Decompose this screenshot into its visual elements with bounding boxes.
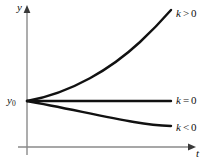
k-negative-operator: < — [183, 121, 189, 133]
initial-value-label: y0 — [7, 95, 16, 108]
curve-k-positive — [27, 10, 171, 101]
curve-label-k-negative: k<0 — [176, 122, 197, 133]
k-positive-variable: k — [176, 7, 181, 19]
k-zero-value: 0 — [191, 94, 197, 106]
k-negative-variable: k — [176, 121, 181, 133]
exponential-growth-decay-figure: y t y0 k>0 k=0 k<0 — [0, 0, 208, 160]
y-axis-label: y — [17, 2, 22, 13]
t-axis-label: t — [196, 148, 199, 159]
plot-canvas — [0, 0, 208, 160]
k-zero-variable: k — [176, 94, 181, 106]
t-axis-arrowhead — [188, 144, 196, 151]
curve-k-negative — [27, 101, 171, 126]
k-positive-operator: > — [183, 7, 189, 19]
y-axis-arrowhead — [24, 5, 31, 13]
curve-label-k-zero: k=0 — [176, 95, 197, 106]
curve-label-k-positive: k>0 — [176, 8, 197, 19]
k-zero-operator: = — [183, 94, 189, 106]
initial-value-subscript: 0 — [12, 99, 16, 108]
k-positive-value: 0 — [191, 7, 197, 19]
k-negative-value: 0 — [191, 121, 197, 133]
